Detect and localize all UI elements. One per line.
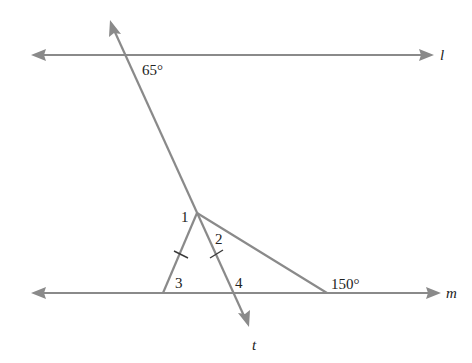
label-line-l: l bbox=[440, 47, 444, 63]
geometry-diagram: l m t 65° 150° 1 2 3 4 bbox=[0, 0, 472, 363]
arrow-down-t-icon bbox=[238, 310, 250, 327]
label-angle-65: 65° bbox=[142, 62, 163, 78]
arrow-left-m-icon bbox=[31, 287, 46, 299]
arrow-right-l-icon bbox=[419, 49, 434, 61]
arrow-right-m-icon bbox=[426, 287, 441, 299]
label-line-t: t bbox=[252, 337, 257, 353]
label-angle-1: 1 bbox=[181, 209, 189, 225]
label-angle-3: 3 bbox=[175, 275, 183, 291]
triangle-sides bbox=[163, 213, 327, 293]
label-line-m: m bbox=[446, 285, 457, 301]
arrow-left-l-icon bbox=[31, 49, 46, 61]
line-l bbox=[31, 49, 434, 61]
label-angle-2: 2 bbox=[215, 231, 223, 247]
label-angle-150: 150° bbox=[331, 276, 360, 292]
label-angle-4: 4 bbox=[235, 275, 243, 291]
